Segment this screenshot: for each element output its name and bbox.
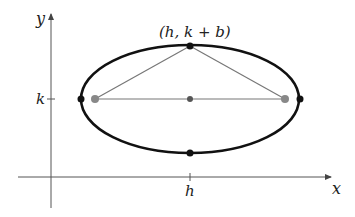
center-point xyxy=(187,96,193,102)
ellipse-diagram: y x k h (h, k + b) xyxy=(0,0,355,217)
right-focus-to-covertex xyxy=(190,46,285,99)
left-focus-point xyxy=(91,95,99,103)
left-focus-to-covertex xyxy=(95,46,190,99)
x-axis-label: x xyxy=(332,179,341,198)
right-focus-point xyxy=(281,95,289,103)
covertex-label: (h, k + b) xyxy=(159,23,231,41)
h-label: h xyxy=(185,182,195,200)
left-vertex-point xyxy=(78,96,85,103)
k-label: k xyxy=(36,90,45,108)
right-vertex-point xyxy=(297,96,304,103)
bottom-covertex-point xyxy=(187,150,194,157)
y-axis-label: y xyxy=(35,9,46,28)
top-covertex-point xyxy=(187,43,194,50)
